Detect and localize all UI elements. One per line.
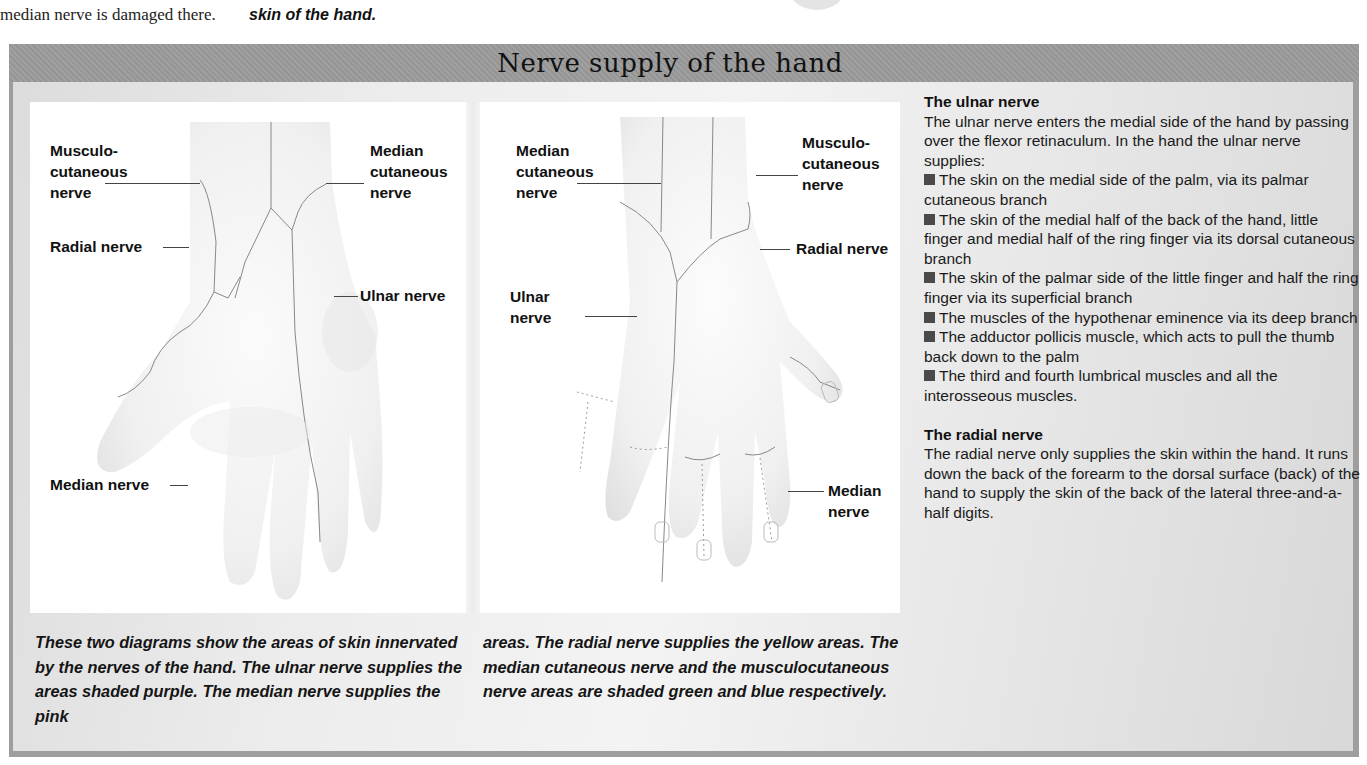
square-bullet-icon: [924, 312, 935, 323]
leader-line: [326, 183, 364, 184]
caption-left: These two diagrams show the areas of ski…: [35, 630, 475, 728]
previous-text-fragment: median nerve is damaged there.: [0, 4, 216, 26]
leader-line: [577, 183, 661, 184]
panel-body: Musculo- cutaneous nerve Median cutaneou…: [13, 82, 1353, 751]
ulnar-bullet: The skin of the palmar side of the littl…: [924, 268, 1360, 307]
ulnar-nerve-intro: The ulnar nerve enters the medial side o…: [924, 112, 1360, 171]
square-bullet-icon: [924, 331, 935, 342]
ulnar-bullet: The skin on the medial side of the palm,…: [924, 170, 1360, 209]
square-bullet-icon: [924, 174, 935, 185]
label-musculocutaneous-nerve: Musculo- cutaneous nerve: [50, 140, 128, 203]
radial-nerve-heading: The radial nerve: [924, 425, 1360, 445]
label-ulnar-nerve-dorsal: Ulnar nerve: [510, 286, 551, 328]
label-musculocutaneous-nerve-dorsal: Musculo- cutaneous nerve: [802, 132, 880, 195]
section-gap: [924, 406, 1360, 425]
caption-right: areas. The radial nerve supplies the yel…: [483, 630, 913, 704]
decorative-circle: [787, 0, 847, 10]
ulnar-bullet: The muscles of the hypothenar eminence v…: [924, 308, 1360, 328]
panel-header: Nerve supply of the hand: [9, 44, 1359, 82]
label-ulnar-nerve: Ulnar nerve: [360, 285, 445, 306]
nerve-supply-panel: Nerve supply of the hand: [9, 44, 1359, 757]
label-radial-nerve-dorsal: Radial nerve: [796, 238, 888, 259]
square-bullet-icon: [924, 272, 935, 283]
ulnar-bullet: The adductor pollicis muscle, which acts…: [924, 327, 1360, 366]
diagram-separator: [466, 102, 480, 613]
ulnar-bullet: The skin of the medial half of the back …: [924, 210, 1360, 269]
ulnar-bullet: The third and fourth lumbrical muscles a…: [924, 366, 1360, 405]
leader-line: [760, 249, 790, 250]
panel-title: Nerve supply of the hand: [497, 48, 843, 78]
previous-caption-fragment: skin of the hand.: [249, 4, 376, 26]
leader-line: [585, 316, 637, 317]
label-radial-nerve: Radial nerve: [50, 236, 142, 257]
leader-line: [756, 175, 798, 176]
radial-nerve-body: The radial nerve only supplies the skin …: [924, 444, 1360, 522]
leader-line: [105, 183, 200, 184]
label-median-nerve-dorsal: Median nerve: [828, 480, 881, 522]
ulnar-nerve-heading: The ulnar nerve: [924, 92, 1360, 112]
leader-line: [334, 296, 358, 297]
square-bullet-icon: [924, 214, 935, 225]
text-column: The ulnar nerve The ulnar nerve enters t…: [924, 92, 1360, 522]
label-median-nerve: Median nerve: [50, 474, 149, 495]
leader-line: [163, 247, 189, 248]
leader-line: [170, 485, 188, 486]
leader-line: [788, 491, 824, 492]
label-median-cutaneous-nerve-dorsal: Median cutaneous nerve: [516, 140, 594, 203]
hand-diagrams: Musculo- cutaneous nerve Median cutaneou…: [30, 102, 900, 613]
label-median-cutaneous-nerve: Median cutaneous nerve: [370, 140, 448, 203]
square-bullet-icon: [924, 370, 935, 381]
